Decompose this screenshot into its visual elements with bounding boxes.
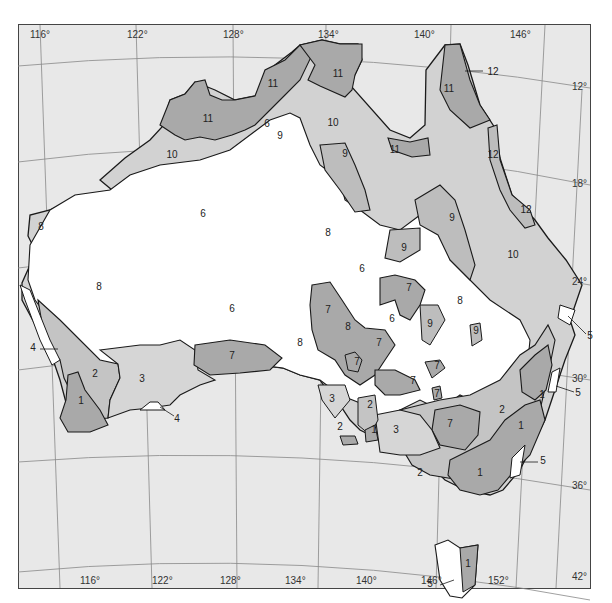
zone-label: 7 bbox=[434, 388, 440, 399]
lon-label: 140° bbox=[414, 29, 435, 40]
zone-label: 10 bbox=[327, 117, 339, 128]
zone-label: 7 bbox=[229, 350, 235, 361]
zone-label: 12 bbox=[487, 66, 499, 77]
zone-label: 7 bbox=[354, 356, 360, 367]
zone-label: 11 bbox=[333, 68, 344, 79]
lon-label: 116° bbox=[80, 575, 100, 586]
lon-label: 146° bbox=[510, 29, 531, 40]
zone-label: 2 bbox=[367, 399, 373, 410]
zone-label: 12 bbox=[487, 149, 499, 160]
zone-label: 11 bbox=[203, 113, 214, 124]
zone-label: 1 bbox=[78, 395, 84, 406]
zone-label: 5 bbox=[587, 330, 593, 341]
zone-label: 5 bbox=[575, 387, 581, 398]
lon-label: 116° bbox=[30, 29, 50, 40]
zone-label: 5 bbox=[540, 455, 546, 466]
zone-label: 9 bbox=[427, 318, 433, 329]
lon-label: 134° bbox=[285, 575, 306, 586]
zone-label: 2 bbox=[337, 421, 343, 432]
zone-2-island bbox=[340, 436, 358, 445]
zone-label: 9 bbox=[449, 212, 455, 223]
zone-label: 6 bbox=[229, 303, 235, 314]
lat-label: 24° bbox=[572, 276, 587, 287]
zone-label: 10 bbox=[166, 149, 178, 160]
zone-label: 1 bbox=[477, 467, 483, 478]
zone-label: 7 bbox=[376, 337, 382, 348]
zone-label: 1 bbox=[539, 389, 545, 400]
zone-label: 1 bbox=[518, 420, 524, 431]
zone-label: 11 bbox=[390, 144, 401, 155]
zone-label: 6 bbox=[200, 208, 206, 219]
zone-label: 4 bbox=[30, 342, 36, 353]
zone-label: 6 bbox=[264, 118, 270, 129]
zone-label: 7 bbox=[406, 282, 412, 293]
lon-label: 128° bbox=[220, 575, 241, 586]
lon-label: 152° bbox=[488, 575, 509, 586]
zone-label: 7 bbox=[434, 360, 440, 371]
zone-label: 1 bbox=[371, 424, 377, 435]
lon-label: 134° bbox=[318, 29, 339, 40]
zone-label: 12 bbox=[520, 204, 532, 215]
zone-label: 9 bbox=[473, 325, 479, 336]
lon-label: 140° bbox=[356, 575, 377, 586]
zone-label: 7 bbox=[447, 418, 453, 429]
zone-label: 9 bbox=[342, 148, 348, 159]
zone-label: 8 bbox=[38, 221, 44, 232]
lon-label: 128° bbox=[223, 29, 244, 40]
zone-label: 8 bbox=[457, 295, 463, 306]
zone-label: 9 bbox=[277, 130, 283, 141]
zone-label: 4 bbox=[174, 413, 180, 424]
zone-label: 3 bbox=[393, 424, 399, 435]
lon-label: 122° bbox=[127, 29, 148, 40]
lat-label: 18° bbox=[572, 178, 587, 189]
zone-label: 1 bbox=[465, 558, 471, 569]
zone-label: 7 bbox=[410, 375, 416, 386]
lat-label: 30° bbox=[572, 373, 587, 384]
zone-label: 8 bbox=[297, 337, 303, 348]
zone-label: 2 bbox=[417, 467, 423, 478]
zone-label: 8 bbox=[345, 321, 351, 332]
vegetation-zone-map: 1111111111121212691010986899106878786996… bbox=[0, 0, 612, 603]
zone-label: 8 bbox=[96, 281, 102, 292]
zone-label: 8 bbox=[325, 227, 331, 238]
zone-label: 6 bbox=[389, 313, 395, 324]
zone-label: 11 bbox=[444, 83, 455, 94]
zone-label: 2 bbox=[499, 404, 505, 415]
zone-label: 3 bbox=[329, 393, 335, 404]
zone-label: 6 bbox=[359, 263, 365, 274]
lat-label: 42° bbox=[572, 571, 587, 582]
zone-label: 7 bbox=[325, 304, 331, 315]
zone-label: 11 bbox=[268, 78, 279, 89]
lon-label: 146° bbox=[421, 575, 442, 586]
zone-label: 2 bbox=[92, 368, 98, 379]
zone-label: 10 bbox=[507, 249, 519, 260]
zone-label: 3 bbox=[139, 373, 145, 384]
zone-label: 9 bbox=[401, 242, 407, 253]
lat-label: 12° bbox=[572, 81, 587, 92]
lon-label: 122° bbox=[152, 575, 173, 586]
lat-label: 36° bbox=[572, 480, 587, 491]
